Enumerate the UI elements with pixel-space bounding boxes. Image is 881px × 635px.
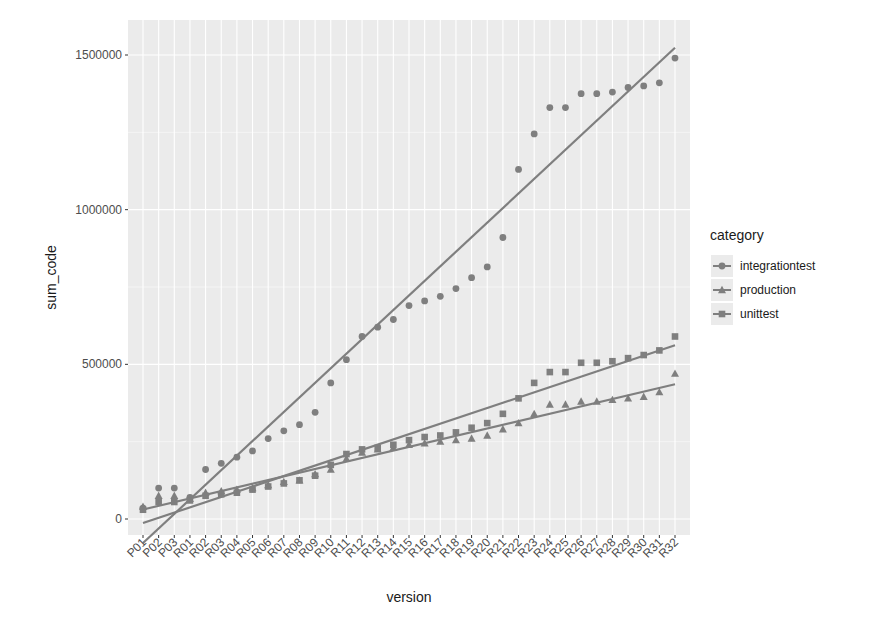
x-axis-label: version [386, 589, 431, 605]
integrationtest-point [437, 293, 444, 300]
unittest-point [421, 434, 428, 441]
unittest-point [359, 446, 366, 453]
integrationtest-point [249, 448, 256, 455]
integrationtest-point [531, 130, 538, 137]
unittest-point [327, 462, 334, 469]
unittest-point [672, 333, 679, 340]
legend-item-integrationtest: integrationtest [711, 255, 816, 277]
integrationtest-point [390, 316, 397, 323]
unittest-point [281, 480, 288, 487]
integrationtest-point [499, 234, 506, 241]
integrationtest-point [359, 333, 366, 340]
integrationtest-point [625, 84, 632, 91]
legend-item-production: production [711, 279, 796, 301]
integrationtest-point [296, 421, 303, 428]
integrationtest-point [562, 104, 569, 111]
y-tick-label: 1000000 [75, 203, 122, 217]
integrationtest-point [343, 356, 350, 363]
integrationtest-point [202, 466, 209, 473]
legend-label: unittest [740, 307, 779, 321]
integrationtest-point [453, 285, 460, 292]
y-axis: 050000010000001500000 [75, 48, 128, 526]
integrationtest-point [468, 274, 475, 281]
integrationtest-point [484, 263, 491, 270]
unittest-point [249, 486, 256, 493]
integrationtest-point [218, 460, 225, 467]
unittest-point [171, 499, 178, 506]
unittest-point [296, 477, 303, 484]
legend: category integrationtestproductionunitte… [710, 227, 816, 325]
unittest-point [500, 411, 507, 418]
unittest-point [547, 369, 554, 376]
integrationtest-point [421, 298, 428, 305]
chart-canvas: 050000010000001500000 P01P02P03R01R02R03… [0, 0, 881, 635]
unittest-point [453, 429, 460, 436]
chart: 050000010000001500000 P01P02P03R01R02R03… [0, 0, 881, 635]
unittest-point [187, 497, 194, 504]
integrationtest-point [640, 83, 647, 90]
x-axis: P01P02P03R01R02R03R04R05R06R07R08R09R10R… [124, 535, 681, 561]
unittest-point [202, 493, 209, 500]
integrationtest-point [171, 485, 178, 492]
y-axis-label: sum_code [43, 245, 59, 310]
integrationtest-point [515, 166, 522, 173]
unittest-point [312, 472, 319, 479]
integrationtest-point [546, 104, 553, 111]
integrationtest-point [578, 90, 585, 97]
unittest-point [593, 359, 600, 366]
unittest-point [265, 483, 272, 490]
integrationtest-point [656, 79, 663, 86]
unittest-point [468, 424, 475, 431]
square-icon [719, 311, 726, 318]
integrationtest-point [155, 485, 162, 492]
x-tick-label: R32 [656, 535, 682, 561]
unittest-point [140, 506, 147, 513]
legend-title: category [710, 227, 764, 243]
unittest-point [625, 355, 632, 362]
unittest-point [609, 358, 616, 365]
unittest-point [515, 395, 522, 402]
legend-item-unittest: unittest [711, 303, 779, 325]
unittest-point [155, 499, 162, 506]
unittest-point [437, 432, 444, 439]
integrationtest-point [609, 89, 616, 96]
unittest-point [531, 380, 538, 387]
unittest-point [578, 359, 585, 366]
unittest-point [406, 437, 413, 444]
unittest-point [218, 491, 225, 498]
integrationtest-point [672, 55, 679, 62]
integrationtest-point [265, 435, 272, 442]
integrationtest-point [593, 90, 600, 97]
unittest-point [390, 441, 397, 448]
unittest-point [374, 445, 381, 452]
integrationtest-point [327, 379, 334, 386]
unittest-point [484, 420, 491, 427]
unittest-point [640, 352, 647, 359]
legend-label: production [740, 283, 796, 297]
y-tick-label: 1500000 [75, 48, 122, 62]
circle-icon [719, 263, 726, 270]
integrationtest-point [280, 427, 287, 434]
integrationtest-point [374, 324, 381, 331]
legend-label: integrationtest [740, 259, 816, 273]
unittest-point [656, 347, 663, 354]
unittest-point [234, 489, 241, 496]
integrationtest-point [406, 302, 413, 309]
integrationtest-point [233, 454, 240, 461]
unittest-point [562, 369, 569, 376]
y-tick-label: 0 [115, 512, 122, 526]
integrationtest-point [312, 409, 319, 416]
unittest-point [343, 451, 350, 458]
y-tick-label: 500000 [82, 357, 122, 371]
